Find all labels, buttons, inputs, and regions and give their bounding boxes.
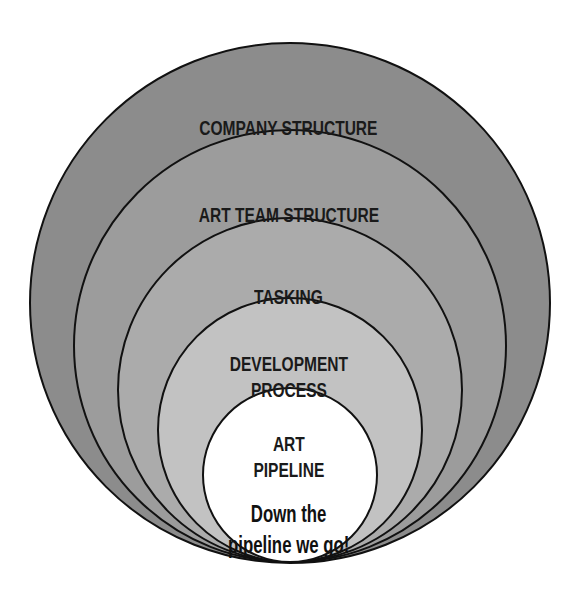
label-company-structure: COMPANY STRUCTURE [0,89,577,141]
label-development-process: DEVELOPMENT PROCESS [0,325,577,403]
label-art-pipeline-tagline-text: Down the pipeline we go! [228,498,349,560]
label-tasking-text: TASKING [254,284,323,310]
label-company-structure-text: COMPANY STRUCTURE [199,115,377,141]
nested-circles-diagram: COMPANY STRUCTURE ART TEAM STRUCTURE TAS… [0,0,577,593]
label-art-team-structure: ART TEAM STRUCTURE [0,176,577,228]
label-tasking: TASKING [0,258,577,310]
label-development-process-text: DEVELOPMENT PROCESS [229,351,347,403]
label-art-team-structure-text: ART TEAM STRUCTURE [198,202,378,228]
label-art-pipeline-tagline: Down the pipeline we go! [0,467,577,560]
